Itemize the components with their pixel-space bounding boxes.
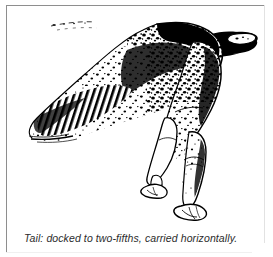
dog-hindquarters-illustration [7,6,264,222]
frame-border-right [264,5,265,243]
illustration-area [7,6,264,222]
frame-border-bottom [6,252,252,253]
figure-caption: Tail: docked to two-fifths, carried hori… [24,232,254,245]
figure-panel: Tail: docked to two-fifths, carried hori… [0,0,273,257]
left-paw [141,184,167,198]
